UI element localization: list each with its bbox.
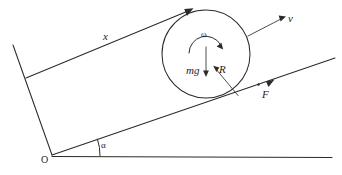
label-displacement-x: x: [103, 31, 108, 42]
friction-F-origin-dot: [257, 83, 259, 85]
displacement-x-line: [26, 10, 191, 78]
physics-diagram-inclined-plane: x v ω mg R F α O: [0, 0, 342, 175]
friction-F-arrowhead: [266, 80, 275, 88]
label-angular-velocity-omega: ω: [201, 30, 207, 39]
velocity-v-arrow-line: [248, 18, 283, 36]
label-radius-R: R: [219, 64, 226, 75]
label-weight-mg: mg: [186, 65, 199, 76]
label-friction-force-F: F: [262, 89, 269, 100]
incline-left-edge-line: [13, 45, 52, 155]
weight-mg-arrowhead: [203, 71, 209, 78]
diagram-canvas: [0, 0, 342, 175]
label-incline-angle-alpha: α: [101, 141, 106, 150]
incline-angle-arc: [98, 139, 101, 156]
label-velocity-v: v: [288, 13, 293, 24]
label-origin-O: O: [41, 155, 48, 165]
ground-horizontal-line: [52, 157, 332, 158]
velocity-v-arrowhead: [279, 16, 286, 22]
